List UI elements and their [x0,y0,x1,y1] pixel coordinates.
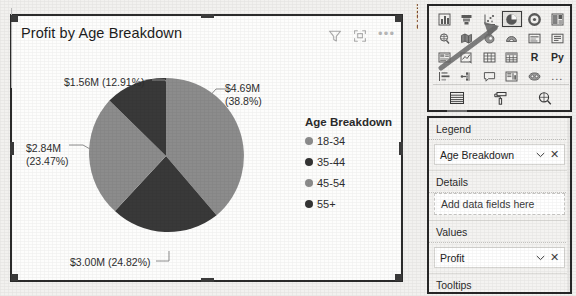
resize-handle-left-middle[interactable] [10,142,14,155]
leader-line-55plus [152,79,176,93]
filled-map-icon[interactable] [456,29,478,47]
data-label-55plus: $1.56M (12.91%) [64,76,145,89]
data-label-45-54-value: $2.84M [26,142,69,155]
filter-icon[interactable] [328,29,342,43]
data-label-45-54: $2.84M (23.47%) [26,142,69,168]
legend-swatch-icon [305,200,313,208]
resize-handle-top-middle[interactable] [201,14,214,18]
legend-item-label: 55+ [317,198,336,210]
funnel-icon[interactable] [501,29,523,47]
right-pane-scrollbar[interactable] [567,118,570,294]
focus-mode-icon[interactable] [353,29,367,43]
data-label-45-54-percent: (23.47%) [26,155,69,168]
table-icon[interactable] [501,48,523,66]
pie-chart-icon[interactable] [501,10,523,28]
remove-field-icon[interactable]: ✕ [550,252,559,263]
filters-pane-label: Filters [415,0,418,57]
legend-swatch-icon [305,158,313,166]
fields-well-pane: Legend Age Breakdown ✕ Details Add data … [427,116,572,294]
leader-line-35-44 [156,250,176,264]
chevron-down-icon[interactable] [536,152,545,158]
data-label-35-44-text: $3.00M (24.82%) [70,256,151,268]
r-script-visual-icon[interactable]: R [524,48,546,66]
more-options-icon[interactable]: ••• [378,29,392,43]
pie-chart-visual-container[interactable]: Profit by Age Breakdown ••• [10,14,403,282]
slicer-icon[interactable] [478,48,500,66]
resize-handle-bottom-left[interactable] [11,274,18,281]
screenshot-root: Profit by Age Breakdown ••• [0,0,576,296]
values-field-controls: ✕ [536,252,559,263]
python-visual-label: Py [551,51,564,63]
resize-handle-bottom-middle[interactable] [201,278,214,282]
legend-well-field[interactable]: Age Breakdown ✕ [434,144,565,165]
legend-item-18-34[interactable]: 18-34 [305,135,392,147]
chart-legend: Age Breakdown 18-34 35-44 45-54 55+ [305,116,392,219]
legend-swatch-icon [305,179,313,187]
legend-item-45-54[interactable]: 45-54 [305,177,392,189]
tooltips-well-header: Tooltips [429,274,570,294]
details-well-header: Details [429,171,570,193]
kpi-icon[interactable] [456,48,478,66]
data-label-35-44: $3.00M (24.82%) [70,256,151,269]
chevron-down-icon[interactable] [536,255,545,261]
visualization-icon-grid: R Py [433,10,569,85]
more-visuals-label: ... [551,73,563,79]
resize-handle-top-left[interactable] [11,15,18,22]
key-influencers-icon[interactable] [456,67,478,85]
gauge-icon[interactable] [524,29,546,47]
legend-well-header: Legend [429,118,570,140]
right-pane: R Py [427,4,572,294]
fields-tab-icon[interactable] [445,87,469,109]
data-label-18-34-percent: (38.8%) [225,95,262,108]
python-visual-icon[interactable]: Py [546,48,568,66]
values-field-name: Profit [440,252,465,264]
decomposition-tree-icon[interactable] [433,67,455,85]
card-icon[interactable] [546,29,568,47]
map-icon[interactable] [433,29,455,47]
legend-field-controls: ✕ [536,149,559,160]
data-label-55plus-text: $1.56M (12.91%) [64,76,145,88]
visualization-pane-tabs [433,84,569,111]
visual-header-icons: ••• [328,29,392,43]
legend-item-label: 18-34 [317,135,345,147]
shape-map-icon[interactable] [478,29,500,47]
legend-title: Age Breakdown [305,116,392,128]
legend-field-name: Age Breakdown [440,149,514,161]
analytics-tab-icon[interactable] [533,87,557,109]
smart-narrative-icon[interactable] [478,67,500,85]
donut-chart-icon[interactable] [524,10,546,28]
data-label-18-34-value: $4.69M [225,82,262,95]
visual-canvas: Profit by Age Breakdown ••• [12,16,401,280]
values-well-header: Values [429,221,570,243]
stacked-bar-chart-icon[interactable] [433,10,455,28]
power-apps-icon[interactable] [524,67,546,85]
multi-row-card-icon[interactable] [433,48,455,66]
legend-item-35-44[interactable]: 35-44 [305,156,392,168]
format-tab-icon[interactable] [489,87,513,109]
stacked-column-chart-icon[interactable] [456,10,478,28]
resize-handle-bottom-right[interactable] [395,274,402,281]
r-visual-label: R [531,51,539,63]
legend-swatch-icon [305,137,313,145]
legend-item-label: 45-54 [317,177,345,189]
filters-pane-collapsed[interactable]: Filters [404,0,418,72]
treemap-icon[interactable] [546,10,568,28]
get-more-visuals-icon[interactable]: ... [546,67,568,85]
paginated-report-icon[interactable] [501,67,523,85]
visualizations-pane[interactable]: R Py [427,4,572,112]
data-label-18-34: $4.69M (38.8%) [225,82,262,108]
details-well-placeholder: Add data fields here [441,198,534,210]
resize-handle-right-middle[interactable] [399,142,403,155]
leader-line-18-34 [208,88,228,102]
remove-field-icon[interactable]: ✕ [550,149,559,160]
scatter-chart-icon[interactable] [478,10,500,28]
page-title: Profit by Age Breakdown [21,25,182,41]
details-well-dropzone[interactable]: Add data fields here [434,193,565,215]
leader-line-45-54 [69,144,91,150]
legend-item-55plus[interactable]: 55+ [305,198,392,210]
resize-handle-top-right[interactable] [395,15,402,22]
values-well-field[interactable]: Profit ✕ [434,247,565,268]
legend-item-label: 35-44 [317,156,345,168]
